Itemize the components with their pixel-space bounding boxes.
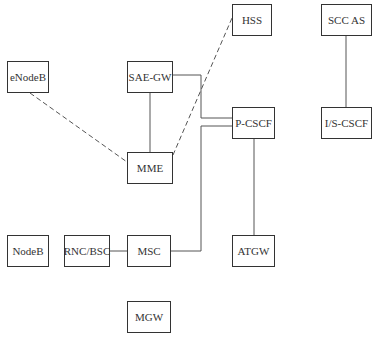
node-label: I/S-CSCF: [325, 117, 368, 129]
node-hss: HSS: [232, 4, 272, 36]
node-is-cscf: I/S-CSCF: [321, 107, 372, 139]
node-label: HSS: [242, 14, 262, 26]
network-diagram: eNodeBSAE-GWMMEHSSSCC ASP-CSCFI/S-CSCFAT…: [0, 0, 372, 342]
node-label: P-CSCF: [235, 117, 272, 129]
node-p-cscf: P-CSCF: [232, 107, 275, 139]
node-label: MSC: [137, 245, 160, 257]
edge-enodeb-mme: [30, 93, 127, 162]
edge-mme-hss: [173, 18, 232, 155]
node-label: RNC/BSC: [64, 245, 110, 257]
edge-sae-gw-p-cscf: [173, 75, 232, 118]
node-msc: MSC: [127, 235, 171, 267]
node-scc-as: SCC AS: [321, 4, 372, 36]
node-label: NodeB: [12, 245, 43, 257]
node-label: SCC AS: [328, 14, 365, 26]
node-atgw: ATGW: [232, 235, 275, 267]
node-mme: MME: [127, 152, 173, 184]
node-label: ATGW: [238, 245, 270, 257]
node-label: SAE-GW: [129, 71, 172, 83]
node-mgw: MGW: [127, 301, 171, 333]
node-label: MGW: [135, 311, 163, 323]
node-label: MME: [137, 162, 163, 174]
connection-lines: [0, 0, 372, 342]
node-nodeb: NodeB: [7, 235, 49, 267]
node-label: eNodeB: [10, 71, 46, 83]
node-sae-gw: SAE-GW: [127, 61, 173, 93]
node-enodeb: eNodeB: [7, 61, 49, 93]
node-rnc-bsc: RNC/BSC: [64, 235, 110, 267]
edge-msc-p-cscf: [171, 126, 232, 251]
